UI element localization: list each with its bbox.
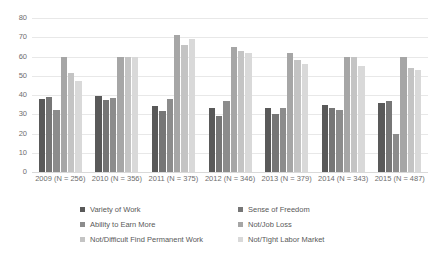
y-axis-tick-label: 10 — [19, 149, 27, 157]
bar-group-bars — [209, 18, 252, 172]
bar — [61, 57, 67, 173]
bar — [280, 108, 286, 172]
bar — [132, 57, 138, 173]
bar — [322, 105, 328, 172]
bar — [53, 110, 59, 172]
legend-swatch-icon — [238, 237, 243, 242]
x-axis-tick-label: 2011 (N = 375) — [145, 174, 202, 183]
bar-group-bars — [265, 18, 308, 172]
legend-swatch-icon — [80, 222, 85, 227]
bar — [351, 57, 357, 173]
x-axis-labels: 2009 (N = 256)2010 (N = 356)2011 (N = 37… — [32, 174, 428, 183]
bar — [189, 39, 195, 172]
bar — [125, 57, 131, 173]
bar — [245, 53, 251, 172]
bar — [344, 57, 350, 173]
y-axis-tick-label: 60 — [19, 53, 27, 61]
legend-item[interactable]: Sense of Freedom — [238, 206, 410, 214]
bar-group-bars — [152, 18, 195, 172]
legend-item[interactable]: Not/Tight Labor Market — [238, 236, 410, 244]
bar — [68, 73, 74, 172]
x-axis-tick-label: 2013 (N = 379) — [258, 174, 315, 183]
chart-legend: Variety of WorkSense of FreedomAbility t… — [80, 202, 410, 247]
bar — [174, 35, 180, 172]
bar — [95, 96, 101, 172]
bar — [117, 57, 123, 172]
bar-group — [145, 18, 202, 172]
legend-label: Not/Tight Labor Market — [248, 236, 324, 244]
bar-chart: 80706050403020100 2009 (N = 256)2010 (N … — [0, 0, 435, 259]
y-axis-tick-label: 20 — [19, 130, 27, 138]
bar — [238, 51, 244, 172]
bar-group-bars — [95, 18, 138, 172]
bar-group — [371, 18, 428, 172]
legend-swatch-icon — [80, 237, 85, 242]
y-axis-tick-label: 50 — [19, 72, 27, 80]
legend-item[interactable]: Ability to Earn More — [80, 221, 238, 229]
legend-label: Variety of Work — [90, 206, 141, 214]
bar-groups — [32, 18, 428, 172]
bar — [265, 108, 271, 172]
plot-area: 80706050403020100 — [32, 18, 428, 172]
legend-label: Not/Job Loss — [248, 221, 292, 229]
x-axis-tick-label: 2015 (N = 487) — [371, 174, 428, 183]
bar — [181, 45, 187, 172]
bar — [159, 111, 165, 172]
bar — [393, 134, 399, 173]
bar — [302, 64, 308, 172]
bar-group — [202, 18, 259, 172]
x-axis-tick-label: 2010 (N = 356) — [89, 174, 146, 183]
bar — [408, 68, 414, 172]
bar — [39, 99, 45, 172]
bar — [287, 53, 293, 172]
x-axis-tick-label: 2012 (N = 346) — [202, 174, 259, 183]
bar — [75, 81, 81, 172]
x-axis-tick-label: 2014 (N = 343) — [315, 174, 372, 183]
legend-item[interactable]: Not/Difficult Find Permanent Work — [80, 236, 238, 244]
bar — [336, 110, 342, 172]
bar — [167, 99, 173, 172]
bar — [152, 106, 158, 172]
bar — [209, 108, 215, 172]
bar — [231, 47, 237, 172]
y-axis-tick-label: 80 — [19, 14, 27, 22]
legend-item[interactable]: Not/Job Loss — [238, 221, 410, 229]
bar-group — [32, 18, 89, 172]
bar — [358, 66, 364, 172]
legend-label: Ability to Earn More — [90, 221, 155, 229]
bar-group-bars — [378, 18, 421, 172]
bar — [329, 108, 335, 172]
y-axis-tick-label: 30 — [19, 111, 27, 119]
legend-label: Sense of Freedom — [248, 206, 310, 214]
bar — [386, 101, 392, 172]
x-axis-tick-label: 2009 (N = 256) — [32, 174, 89, 183]
legend-item[interactable]: Variety of Work — [80, 206, 238, 214]
bar-group-bars — [322, 18, 365, 172]
bar-group — [315, 18, 372, 172]
bar — [216, 116, 222, 172]
bar — [103, 100, 109, 172]
bar — [46, 97, 52, 172]
bar-group — [258, 18, 315, 172]
bar — [378, 103, 384, 172]
bar — [294, 60, 300, 172]
legend-swatch-icon — [238, 207, 243, 212]
legend-swatch-icon — [238, 222, 243, 227]
y-axis-tick-label: 70 — [19, 34, 27, 42]
legend-swatch-icon — [80, 207, 85, 212]
bar — [272, 114, 278, 172]
bar-group — [89, 18, 146, 172]
bar — [223, 101, 229, 172]
y-axis-tick-label: 40 — [19, 91, 27, 99]
bar-group-bars — [39, 18, 82, 172]
bar — [110, 98, 116, 172]
legend-label: Not/Difficult Find Permanent Work — [90, 236, 203, 244]
y-axis-tick-label: 0 — [23, 168, 27, 176]
bar — [400, 57, 406, 173]
bar — [415, 70, 421, 172]
gridline: 0 — [32, 172, 428, 173]
